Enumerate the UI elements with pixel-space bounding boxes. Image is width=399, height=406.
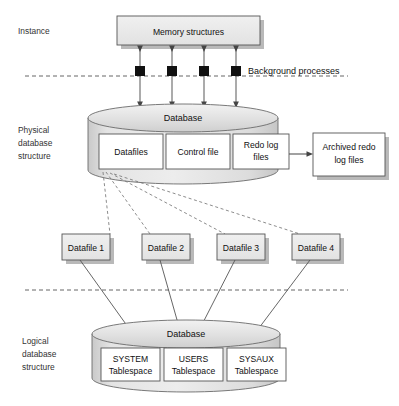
section-label-logical-line-2: structure [22,362,55,372]
archived-redo-log-files-box[interactable]: Archived redo log files [313,133,389,180]
background-process-arrows [140,49,236,105]
physical-component-datafiles[interactable]: Datafiles [99,134,163,169]
database-architecture-diagram: Instance Physical database structure Log… [0,0,399,406]
section-label-logical: Logical database structure [22,336,57,372]
background-processes-label: Background processes [248,66,340,76]
background-process-square-1[interactable] [135,66,145,76]
tablespace-box-users[interactable]: USERS Tablespace [164,348,223,381]
tablespace-box-users-line-1: Tablespace [172,366,216,376]
archived-redo-log-files-line-1: log files [334,155,363,165]
memory-structures-box[interactable]: Memory structures [117,16,264,49]
background-process-square-3[interactable] [199,66,209,76]
background-process-square-4[interactable] [231,66,241,76]
tablespace-box-sysaux-line-0: SYSAUX [239,354,274,364]
datafile-box-3[interactable]: Datafile 3 [217,234,269,264]
physical-component-redo-log-files-line-0: Redo log [244,140,279,150]
section-label-physical: Physical database structure [18,125,53,161]
tablespace-box-sysaux-line-1: Tablespace [235,366,279,376]
section-label-instance: Instance [18,26,50,36]
memory-structures-label: Memory structures [153,27,224,37]
section-label-logical-line-1: database [22,349,57,359]
physical-cylinder-label: Database [164,113,203,123]
tablespace-box-system-line-1: Tablespace [109,366,153,376]
background-process-squares[interactable] [135,66,241,76]
tablespace-box-system-line-0: SYSTEM [113,354,148,364]
tablespace-box-sysaux[interactable]: SYSAUX Tablespace [227,348,286,381]
datafile-box-4-label: Datafile 4 [298,243,335,253]
datafile-box-4[interactable]: Datafile 4 [292,234,344,264]
datafile-box-1[interactable]: Datafile 1 [62,234,114,264]
datafile-box-1-label: Datafile 1 [68,243,105,253]
section-label-physical-line-0: Physical [18,125,49,135]
diagram-canvas: Instance Physical database structure Log… [0,0,399,406]
physical-component-control-file-label: Control file [177,147,218,157]
physical-component-redo-log-files-line-1: files [253,152,268,162]
physical-component-datafiles-label: Datafiles [114,147,147,157]
tablespace-box-users-line-0: USERS [179,354,209,364]
datafile-box-3-label: Datafile 3 [223,243,260,253]
section-label-instance-line-0: Instance [18,26,50,36]
archived-redo-log-files-line-0: Archived redo [322,142,375,152]
tablespace-box-system[interactable]: SYSTEM Tablespace [101,348,160,381]
logical-cylinder-label: Database [167,329,206,339]
physical-component-redo-log-files[interactable]: Redo log files [233,134,289,169]
datafile-box-2[interactable]: Datafile 2 [142,234,194,264]
section-label-physical-line-2: structure [18,151,51,161]
section-label-physical-line-1: database [18,138,53,148]
section-label-logical-line-0: Logical [22,336,49,346]
physical-component-control-file[interactable]: Control file [166,134,230,169]
background-process-square-2[interactable] [167,66,177,76]
datafile-box-2-label: Datafile 2 [148,243,185,253]
